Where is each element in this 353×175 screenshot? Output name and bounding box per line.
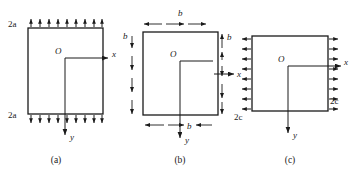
panel-c-x-axis-label: x: [343, 57, 348, 67]
panel-a-y-axis-label: y: [69, 132, 74, 142]
panel-c-right-load-label: 2c: [330, 96, 339, 106]
figure-canvas: 2a 2a O x y (a) b b: [0, 0, 353, 175]
panel-c-origin-label: O: [278, 54, 285, 64]
panel-b-left-dimension-label: b: [123, 31, 128, 41]
panel-b-x-axis-label: x: [236, 69, 241, 79]
panel-b-origin-label: O: [170, 49, 177, 59]
panel-c-square: [252, 36, 328, 111]
panel-b-y-axis-label: y: [184, 135, 189, 145]
panel-b-caption: (b): [174, 155, 185, 166]
panel-a-bottom-load-label: 2a: [8, 110, 17, 120]
panel-a-caption: (a): [51, 155, 62, 166]
panel-a-origin-label: O: [55, 46, 62, 56]
panel-a-bottom-load-arrows: [31, 115, 102, 123]
panel-a-top-load-arrows: [31, 19, 102, 27]
panel-a-top-load-label: 2a: [8, 19, 17, 29]
panel-a-x-axis-label: x: [111, 49, 116, 59]
panel-c-y-axis-label: y: [292, 130, 297, 140]
panel-c: 2c 2c O x y (c): [234, 36, 348, 166]
panel-c-caption: (c): [285, 155, 296, 166]
panel-c-left-load-label: 2c: [234, 112, 243, 122]
panel-b: b b b b O: [123, 8, 241, 166]
panel-c-left-load-arrows: [242, 39, 251, 109]
panel-a: 2a 2a O x y (a): [8, 19, 116, 166]
panel-b-bottom-dimension-label: b: [187, 121, 192, 131]
panel-b-top-dimension-label: b: [178, 8, 183, 18]
engineering-figure: 2a 2a O x y (a) b b: [0, 0, 353, 175]
panel-a-axes: [65, 58, 108, 135]
panel-b-right-dimension-label: b: [227, 32, 232, 42]
